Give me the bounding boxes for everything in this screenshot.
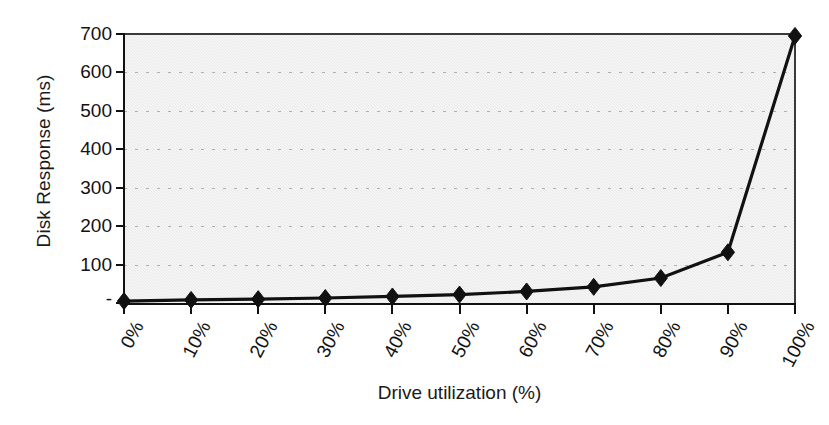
x-axis-tick-label: 100% xyxy=(770,318,818,385)
y-axis-tick xyxy=(116,33,124,35)
y-axis-tick-labels: -100200300400500600700 xyxy=(44,0,112,425)
y-axis-tick-label: 700 xyxy=(44,24,112,43)
x-axis-tick xyxy=(526,305,528,314)
y-axis-tick-label: 500 xyxy=(44,101,112,120)
x-axis-tick-label: 30% xyxy=(300,318,348,385)
x-axis-tick-label: 90% xyxy=(703,318,751,385)
y-axis-tick xyxy=(116,71,124,73)
x-axis-tick xyxy=(190,305,192,314)
y-axis-tick xyxy=(116,302,124,304)
y-axis-tick-label: 600 xyxy=(44,62,112,81)
plot-border-right xyxy=(794,33,796,304)
x-axis-tick-label: 80% xyxy=(636,318,684,385)
x-axis-tick xyxy=(593,305,595,314)
plot-area xyxy=(124,34,795,303)
y-axis-tick-label: 300 xyxy=(44,178,112,197)
x-axis-tick xyxy=(324,305,326,314)
gridline-horizontal xyxy=(124,111,795,112)
y-axis-tick xyxy=(116,225,124,227)
x-axis-tick xyxy=(660,305,662,314)
y-axis-tick-label: 100 xyxy=(44,255,112,274)
plot-border-top xyxy=(124,33,796,35)
x-axis-tick-label: 40% xyxy=(367,318,415,385)
plot-background-texture xyxy=(124,34,795,303)
y-axis-tick xyxy=(116,187,124,189)
x-axis-tick xyxy=(391,305,393,314)
x-axis-title: Drive utilization (%) xyxy=(124,382,795,404)
y-axis-tick-label: 200 xyxy=(44,216,112,235)
x-axis-tick-label: 60% xyxy=(502,318,550,385)
x-axis-tick xyxy=(123,305,125,314)
chart-container: Disk Response (ms) -10020030040050060070… xyxy=(0,0,829,425)
x-axis-tick xyxy=(794,305,796,314)
x-axis-tick-label: 20% xyxy=(233,318,281,385)
gridline-horizontal xyxy=(124,72,795,73)
x-axis-tick xyxy=(257,305,259,314)
gridline-horizontal xyxy=(124,149,795,150)
gridline-horizontal xyxy=(124,265,795,266)
y-axis-tick-label: 400 xyxy=(44,139,112,158)
gridline-horizontal xyxy=(124,226,795,227)
x-axis-tick xyxy=(727,305,729,314)
y-axis-tick xyxy=(116,264,124,266)
gridline-horizontal xyxy=(124,188,795,189)
y-axis-tick xyxy=(116,148,124,150)
x-axis-tick-label: 50% xyxy=(435,318,483,385)
x-axis-tick xyxy=(459,305,461,314)
x-axis-tick-label: 70% xyxy=(569,318,617,385)
x-axis-tick-label: 10% xyxy=(166,318,214,385)
y-axis-tick xyxy=(116,110,124,112)
y-axis-tick-label: - xyxy=(44,289,112,308)
